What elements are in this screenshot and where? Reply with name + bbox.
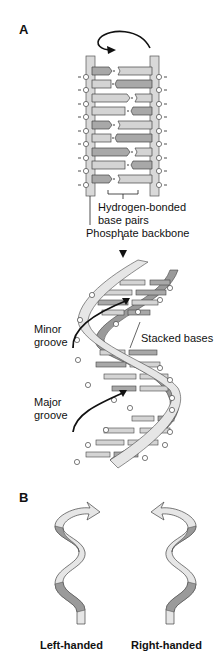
phosphate-backbone-label: Phosphate backbone: [86, 227, 189, 240]
double-helix-diagram: [0, 240, 223, 480]
stacked-bases-label: Stacked bases: [141, 332, 213, 345]
dna-structure-figure: A: [0, 0, 223, 664]
panel-b-label: B: [19, 490, 28, 505]
minor-groove-label: Minor groove: [34, 323, 68, 349]
left-handed-caption: Left-handed: [40, 639, 103, 652]
left-handed-helix-icon: [45, 496, 105, 631]
right-handed-helix-icon: [146, 496, 206, 631]
hydrogen-bonded-label: Hydrogen-bonded base pairs: [98, 201, 186, 227]
right-handed-caption: Right-handed: [131, 639, 202, 652]
rotation-arrow-icon: [98, 31, 150, 50]
major-groove-label: Major groove: [34, 396, 68, 422]
